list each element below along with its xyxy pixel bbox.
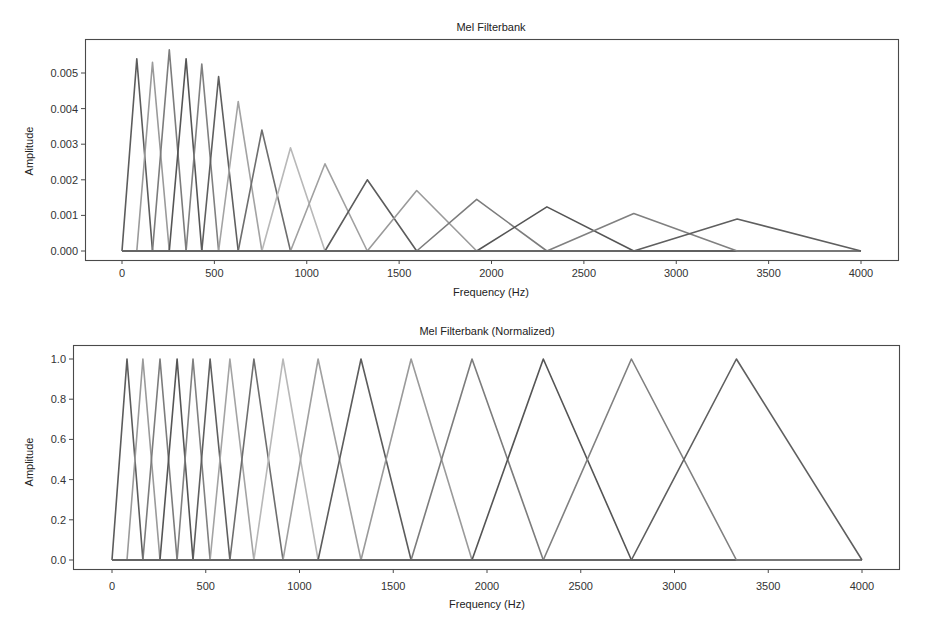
x-tick-label: 1000 <box>287 580 311 592</box>
y-tick-label: 0.002 <box>50 174 78 186</box>
chart-title: Mel Filterbank <box>456 21 526 33</box>
x-tick-label: 2500 <box>572 267 596 279</box>
filter-line <box>122 207 861 251</box>
x-tick-label: 3500 <box>756 580 780 592</box>
x-tick-label: 500 <box>197 580 215 592</box>
y-tick-label: 0.6 <box>51 433 66 445</box>
plot-frame <box>86 40 899 261</box>
x-tick-label: 2000 <box>479 267 503 279</box>
y-tick-label: 0.8 <box>51 393 66 405</box>
filter-line <box>122 77 861 251</box>
filter-line <box>122 102 861 252</box>
figure: Mel Filterbank 0500100015002000250030003… <box>0 0 925 639</box>
x-tick-label: 4000 <box>850 580 874 592</box>
x-tick-label: 1000 <box>295 267 319 279</box>
filter-line <box>112 359 862 560</box>
y-tick-label: 0.004 <box>50 103 78 115</box>
x-tick-label: 0 <box>119 267 125 279</box>
x-tick-label: 4000 <box>849 267 873 279</box>
x-axis-ticks: 05001000150020002500300035004000 <box>119 260 873 279</box>
y-tick-label: 0.4 <box>51 474 66 486</box>
x-tick-label: 3000 <box>662 580 686 592</box>
filter-line <box>112 359 862 560</box>
chart-title: Mel Filterbank (Normalized) <box>419 325 554 337</box>
filter-line <box>112 359 862 560</box>
y-tick-label: 0.001 <box>50 209 78 221</box>
filter-line <box>112 359 862 560</box>
plot-frame <box>74 346 900 570</box>
y-axis-label: Amplitude <box>23 438 35 487</box>
x-tick-label: 3500 <box>756 267 780 279</box>
y-tick-label: 0.2 <box>51 514 66 526</box>
x-axis-label: Frequency (Hz) <box>453 286 529 298</box>
filter-line <box>112 359 862 560</box>
y-tick-label: 0.0 <box>51 554 66 566</box>
filter-lines <box>122 50 861 251</box>
filter-line <box>112 359 862 560</box>
filter-line <box>122 214 861 251</box>
x-tick-label: 0 <box>109 580 115 592</box>
y-tick-label: 1.0 <box>51 353 66 365</box>
y-tick-label: 0.000 <box>50 245 78 257</box>
y-tick-label: 0.005 <box>50 67 78 79</box>
x-tick-label: 3000 <box>664 267 688 279</box>
x-tick-label: 2000 <box>475 580 499 592</box>
filter-line <box>122 180 861 251</box>
filter-line <box>112 359 862 560</box>
filter-lines <box>112 359 862 560</box>
y-tick-label: 0.003 <box>50 138 78 150</box>
filter-line <box>112 359 862 560</box>
x-tick-label: 2500 <box>569 580 593 592</box>
plot-mel-filterbank: Mel Filterbank 0500100015002000250030003… <box>23 21 899 298</box>
x-axis-label: Frequency (Hz) <box>449 598 525 610</box>
x-tick-label: 1500 <box>387 267 411 279</box>
filter-line <box>112 359 862 560</box>
filter-line <box>112 359 862 560</box>
filter-line <box>112 359 862 560</box>
plot-mel-filterbank-normalized: Mel Filterbank (Normalized) 050010001500… <box>23 325 900 610</box>
filter-line <box>112 359 862 560</box>
filter-line <box>112 359 862 560</box>
y-axis-label: Amplitude <box>23 127 35 176</box>
y-axis-ticks: 0.00.20.40.60.81.0 <box>51 353 73 566</box>
filter-line <box>112 359 862 560</box>
x-tick-label: 500 <box>205 267 223 279</box>
filter-line <box>112 359 862 560</box>
filter-line <box>122 219 861 251</box>
x-tick-label: 1500 <box>381 580 405 592</box>
y-axis-ticks: 0.0000.0010.0020.0030.0040.005 <box>50 67 85 257</box>
filter-line <box>112 359 862 560</box>
x-axis-ticks: 05001000150020002500300035004000 <box>109 569 874 592</box>
filter-line <box>122 50 861 251</box>
